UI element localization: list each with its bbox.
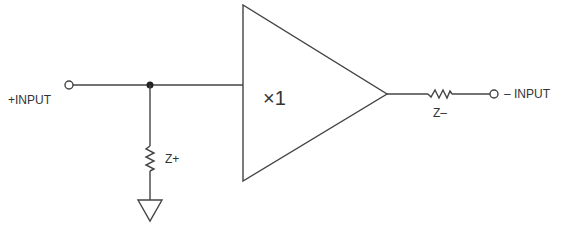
plus-input-label: +INPUT xyxy=(8,93,52,107)
minus-input-terminal xyxy=(490,90,498,98)
ground-icon xyxy=(138,200,162,221)
plus-input-terminal xyxy=(65,81,73,89)
circuit-diagram: +INPUT Z+ ×1 Z– – INPUT xyxy=(0,0,564,231)
minus-input-label: – INPUT xyxy=(504,87,551,101)
z-minus-label: Z– xyxy=(433,106,447,120)
z-plus-label: Z+ xyxy=(165,152,179,166)
z-minus-resistor-icon xyxy=(428,90,452,98)
z-plus-resistor-icon xyxy=(146,146,154,171)
buffer-gain-label: ×1 xyxy=(263,87,286,109)
